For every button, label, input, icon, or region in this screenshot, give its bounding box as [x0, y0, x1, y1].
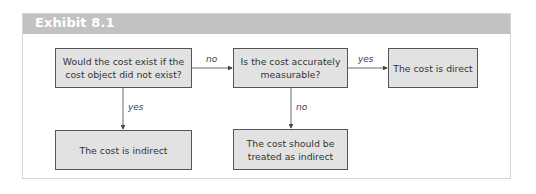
node-label: Would the cost exist if the cost object …: [60, 55, 187, 81]
node-cost-exist-question: Would the cost exist if the cost object …: [55, 48, 192, 88]
node-label: The cost is indirect: [80, 144, 168, 157]
node-treat-as-indirect: The cost should be treated as indirect: [233, 129, 348, 170]
edge-label-no-horizontal: no: [206, 54, 217, 64]
node-cost-direct: The cost is direct: [388, 48, 478, 88]
node-label: The cost is direct: [393, 62, 472, 75]
edge-label-no-vertical: no: [296, 102, 307, 112]
edge-label-yes-vertical: yes: [128, 102, 144, 112]
node-cost-indirect: The cost is indirect: [55, 130, 192, 170]
node-measurable-question: Is the cost accurately measurable?: [233, 48, 348, 88]
node-label: Is the cost accurately measurable?: [238, 55, 343, 81]
node-label: The cost should be treated as indirect: [238, 137, 343, 163]
edge-label-yes-horizontal: yes: [358, 54, 374, 64]
